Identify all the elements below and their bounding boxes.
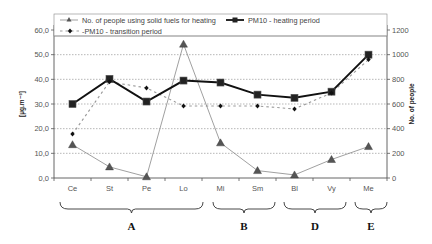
x-tick-label: St [106, 184, 114, 193]
group-brace [355, 202, 387, 213]
triangle-marker [328, 156, 336, 163]
x-tick-label: Me [363, 184, 373, 193]
y2-axis-title: No. of people [408, 83, 416, 125]
triangle-marker [365, 143, 373, 150]
group-brace [213, 202, 275, 213]
x-tick-label: Pe [142, 184, 151, 193]
triangle-marker [180, 40, 188, 47]
axes: 0,010,020,030,040,050,060,00200400600800… [34, 25, 408, 193]
square-marker [180, 77, 187, 84]
y-tick-label: 50,0 [34, 50, 49, 59]
y2-tick-label: 800 [392, 75, 405, 84]
legend-label-people: No. of people using solid fuels for heat… [82, 16, 216, 25]
x-tick-label: Vy [327, 184, 336, 193]
y-tick-label: 30,0 [34, 100, 49, 109]
square-marker [254, 91, 261, 98]
x-tick-label: Mi [217, 184, 225, 193]
diamond-marker [144, 85, 148, 90]
group-label: E [367, 220, 374, 232]
y2-tick-label: 600 [392, 100, 405, 109]
triangle-marker [217, 139, 225, 146]
square-marker [217, 79, 224, 86]
x-tick-label: Sm [252, 184, 263, 193]
y2-tick-label: 400 [392, 124, 405, 133]
legend-label-transition: -PM10 - transition period [82, 27, 162, 36]
diamond-marker [292, 106, 296, 111]
data-series [69, 40, 373, 180]
triangle-marker [69, 141, 77, 148]
y-tick-label: 10,0 [34, 149, 49, 158]
y-tick-label: 0,0 [39, 174, 49, 183]
y-axis-title: [µg.m⁻³] [18, 91, 26, 117]
y2-tick-label: 1200 [392, 26, 409, 35]
y-tick-label: 60,0 [34, 26, 49, 35]
legend-label-heating: PM10 - heating period [248, 16, 320, 25]
series-people-line [73, 44, 369, 177]
x-tick-label: Lo [179, 184, 187, 193]
diamond-marker [181, 103, 185, 108]
x-tick-label: Ce [68, 184, 78, 193]
y-tick-label: 20,0 [34, 124, 49, 133]
triangle-marker [106, 163, 114, 170]
group-brace [284, 202, 346, 213]
chart: 0,010,020,030,040,050,060,00200400600800… [0, 0, 432, 244]
square-marker [291, 94, 298, 101]
group-braces: ABDE [60, 202, 387, 232]
y2-tick-label: 1000 [392, 50, 409, 59]
group-brace [60, 202, 203, 213]
square-marker [143, 98, 150, 105]
group-label: D [311, 220, 319, 232]
y2-tick-label: 200 [392, 149, 405, 158]
series-transition-line [73, 60, 369, 134]
y2-tick-label: 0 [392, 174, 396, 183]
legend: No. of people using solid fuels for heat… [54, 14, 387, 36]
group-label: A [128, 220, 136, 232]
x-tick-label: Bl [291, 184, 298, 193]
group-label: B [240, 220, 248, 232]
triangle-marker [254, 167, 262, 174]
y-tick-label: 40,0 [34, 75, 49, 84]
square-marker [69, 101, 76, 108]
